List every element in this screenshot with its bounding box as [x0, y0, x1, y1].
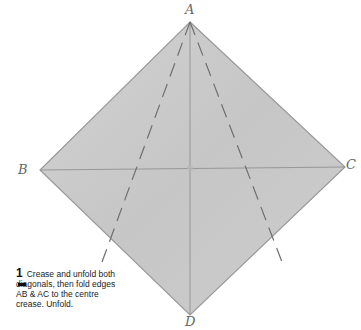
point-label-c: C — [346, 157, 356, 172]
point-label-b: B — [18, 162, 28, 177]
step-underline — [18, 283, 26, 286]
center-point — [187, 165, 193, 171]
step-text: Crease and unfold both diagonals, then f… — [16, 269, 115, 309]
step-caption: 1Crease and unfold both diagonals, then … — [16, 268, 126, 309]
point-label-a: A — [185, 2, 194, 17]
point-label-d: D — [185, 314, 195, 329]
step-number: 1 — [16, 266, 23, 280]
